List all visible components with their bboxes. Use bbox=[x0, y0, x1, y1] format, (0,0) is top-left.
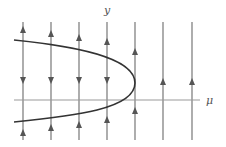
equilibrium-curve bbox=[14, 40, 135, 122]
y-axis-label: y bbox=[103, 4, 111, 17]
arrow-up-icon bbox=[104, 116, 110, 123]
arrow-up-icon bbox=[76, 34, 82, 41]
arrow-up-icon bbox=[20, 129, 26, 136]
arrow-down-icon bbox=[20, 77, 26, 84]
arrow-up-icon bbox=[189, 78, 195, 85]
arrow-down-icon bbox=[48, 77, 54, 84]
arrow-up-icon bbox=[48, 30, 54, 37]
arrow-up-icon bbox=[132, 48, 138, 55]
mu-axis-label: μ bbox=[206, 94, 213, 107]
bifurcation-diagram: y μ bbox=[0, 0, 226, 147]
flow-arrows bbox=[20, 26, 195, 136]
arrow-up-icon bbox=[76, 121, 82, 128]
arrow-up-icon bbox=[104, 38, 110, 45]
arrow-up-icon bbox=[20, 26, 26, 33]
arrow-down-icon bbox=[104, 77, 110, 84]
arrow-down-icon bbox=[76, 77, 82, 84]
arrow-up-icon bbox=[160, 78, 166, 85]
arrow-up-icon bbox=[48, 124, 54, 131]
arrow-up-icon bbox=[132, 107, 138, 114]
